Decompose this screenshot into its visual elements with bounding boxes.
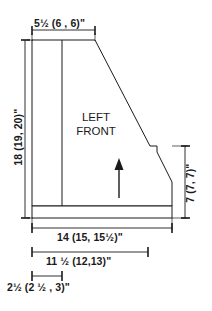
dimension-label-bottom-overall: 14 (15, 15½)" [57,232,123,243]
dimension-label-left-height: 18 (19, 20)" [13,91,24,183]
part-base-strip [32,206,172,218]
dimension-label-bottom-middle: 11 ½ (12,13)" [46,256,111,267]
dimension-bottom-small [32,271,62,281]
dimension-label-bottom-small: 2½ (2 ½ , 3)" [7,282,70,293]
part-name-line1: LEFT [82,111,110,123]
part-name-line2: FRONT [76,125,116,137]
dimension-label-top-width: 5½ (6 , 6)" [34,18,85,29]
dimension-label-right-height: 7 (7, 7)" [185,148,196,218]
technical-drawing: 5½ (6 , 6)" 18 (19, 20)" 7 (7, 7)" 14 (1… [0,0,212,311]
part-name-label: LEFT FRONT [60,110,132,139]
